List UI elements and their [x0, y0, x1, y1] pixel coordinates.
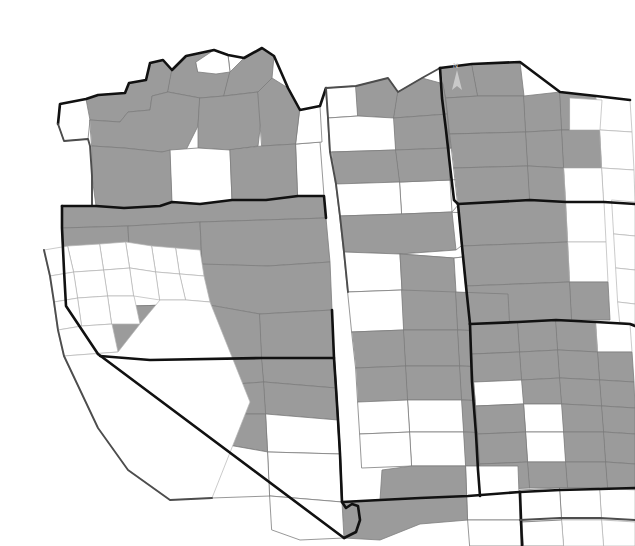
county — [618, 302, 635, 324]
county — [604, 432, 635, 464]
county — [470, 322, 520, 354]
county — [402, 290, 458, 330]
county — [446, 96, 526, 134]
north-arrow-label: N — [453, 62, 458, 69]
county — [202, 262, 332, 314]
county — [270, 496, 344, 540]
county — [266, 414, 340, 454]
county — [400, 254, 456, 292]
county — [328, 116, 396, 152]
county — [268, 452, 342, 502]
county — [336, 182, 402, 216]
county — [570, 282, 610, 320]
county — [566, 202, 606, 242]
county — [478, 432, 528, 464]
county — [600, 380, 635, 408]
county — [602, 406, 635, 434]
county — [260, 310, 334, 358]
county — [556, 320, 598, 352]
county — [462, 242, 570, 286]
county — [340, 212, 456, 254]
county — [198, 92, 262, 150]
county — [406, 366, 462, 400]
county — [92, 146, 172, 208]
county — [396, 148, 450, 182]
county — [474, 380, 524, 406]
state-colorado — [470, 320, 635, 490]
county — [600, 130, 634, 170]
county — [602, 520, 635, 546]
county — [108, 296, 140, 324]
county — [468, 520, 522, 546]
county — [230, 144, 298, 200]
county — [528, 166, 566, 202]
county — [104, 268, 134, 296]
county — [472, 62, 524, 96]
county — [476, 404, 526, 434]
county — [524, 404, 564, 432]
county — [458, 200, 568, 246]
county — [404, 330, 460, 366]
county — [570, 98, 602, 130]
county — [332, 150, 400, 184]
county — [130, 268, 160, 300]
county — [410, 432, 466, 466]
county — [326, 86, 358, 118]
map-canvas: N — [0, 0, 635, 546]
county — [596, 322, 632, 352]
county — [358, 400, 410, 434]
county — [348, 290, 404, 332]
county — [612, 200, 635, 236]
county — [296, 142, 324, 196]
county — [520, 350, 560, 380]
county — [454, 166, 530, 204]
county — [560, 488, 602, 520]
county — [408, 400, 464, 432]
county — [528, 462, 568, 488]
county — [560, 378, 602, 406]
county — [518, 320, 558, 352]
county — [472, 352, 522, 382]
county — [264, 382, 338, 420]
county — [606, 462, 635, 490]
county — [562, 520, 604, 546]
county — [558, 350, 600, 380]
county — [598, 352, 634, 382]
county — [522, 520, 564, 546]
county — [564, 168, 604, 202]
county — [152, 246, 180, 274]
county — [614, 234, 635, 270]
county — [200, 218, 330, 266]
county — [126, 242, 156, 272]
county — [170, 148, 232, 204]
county — [100, 242, 130, 270]
western-us-county-map: N — [0, 0, 635, 546]
county — [562, 404, 604, 432]
county — [526, 130, 564, 168]
county — [394, 114, 450, 150]
county — [176, 248, 204, 276]
county — [450, 132, 528, 168]
county — [600, 488, 635, 522]
county — [564, 432, 606, 462]
county — [352, 330, 406, 368]
county — [562, 130, 602, 168]
county — [616, 268, 635, 304]
county — [524, 92, 562, 132]
county — [602, 168, 635, 204]
county — [526, 432, 566, 462]
county — [360, 432, 412, 468]
county — [296, 106, 322, 144]
county — [78, 296, 112, 326]
county — [356, 366, 408, 402]
county — [522, 378, 562, 404]
county — [566, 462, 608, 488]
county — [344, 252, 402, 292]
county — [58, 99, 90, 141]
county — [568, 242, 608, 282]
county — [68, 244, 104, 272]
county — [74, 270, 108, 298]
county — [400, 180, 452, 214]
county — [520, 488, 562, 522]
